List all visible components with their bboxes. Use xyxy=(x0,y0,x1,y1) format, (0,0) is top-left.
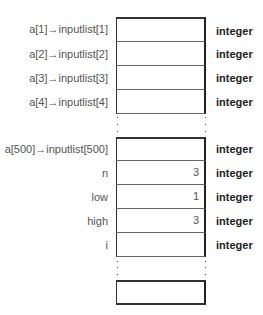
cell-type: integer xyxy=(216,90,253,114)
dot xyxy=(205,124,206,125)
cell-value: 3 xyxy=(193,209,199,232)
dot xyxy=(205,261,206,262)
cell-label: a[500]→inputlist[500] xyxy=(5,137,108,161)
memory-cell xyxy=(116,66,206,90)
memory-cell: 1 xyxy=(116,185,206,209)
cell-type: integer xyxy=(216,233,253,257)
cell-type: integer xyxy=(216,185,253,209)
dot xyxy=(205,274,206,275)
dot xyxy=(205,117,206,118)
cell-label: high xyxy=(87,209,108,233)
cell-label: a[3]→inputlist[3] xyxy=(29,66,108,90)
dot xyxy=(117,117,118,118)
memory-cell: 3 xyxy=(116,209,206,233)
memory-cell xyxy=(116,137,206,161)
dot xyxy=(205,131,206,132)
cell-label: a[4]→inputlist[4] xyxy=(29,90,108,114)
memory-cell xyxy=(116,233,206,257)
memory-cell: 3 xyxy=(116,161,206,185)
memory-cell xyxy=(116,17,206,42)
cell-type: integer xyxy=(216,209,253,233)
dot xyxy=(117,274,118,275)
cell-label: a[1]→inputlist[1] xyxy=(29,17,108,41)
memory-cell xyxy=(116,280,206,305)
dot xyxy=(117,267,118,268)
cell-value: 3 xyxy=(193,161,199,184)
cell-type: integer xyxy=(216,161,253,185)
cell-type: integer xyxy=(216,137,253,161)
cell-value: 1 xyxy=(193,185,199,208)
dot xyxy=(117,131,118,132)
dot xyxy=(117,124,118,125)
cell-type: integer xyxy=(216,19,253,43)
cell-label: low xyxy=(91,185,108,209)
memory-cell xyxy=(116,90,206,114)
cell-type: integer xyxy=(216,66,253,90)
memory-cell xyxy=(116,42,206,66)
cell-label: a[2]→inputlist[2] xyxy=(29,42,108,66)
cell-label: n xyxy=(102,161,108,185)
dot xyxy=(117,261,118,262)
cell-label: i xyxy=(106,233,108,257)
cell-type: integer xyxy=(216,42,253,66)
dot xyxy=(205,267,206,268)
